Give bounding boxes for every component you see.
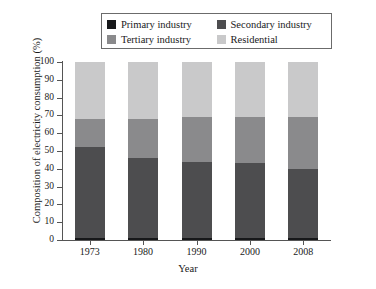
bar-segment-tertiary-industry — [235, 117, 265, 163]
plot-area — [63, 62, 330, 240]
bar-segment-primary-industry — [128, 238, 158, 240]
y-tick — [57, 133, 62, 134]
y-tick — [57, 204, 62, 205]
x-tick — [197, 241, 198, 245]
bar-segment-primary-industry — [182, 238, 212, 240]
legend-swatch-tertiary-industry — [107, 35, 116, 44]
y-tick — [57, 80, 62, 81]
bar-segment-residential — [235, 62, 265, 117]
y-tick — [57, 169, 62, 170]
y-tick — [57, 240, 62, 241]
legend-label-primary-industry: Primary industry — [121, 19, 192, 30]
y-tick — [57, 222, 62, 223]
y-tick — [57, 98, 62, 99]
bar-1973 — [75, 62, 105, 240]
x-tick-label: 1980 — [118, 246, 168, 257]
bar-segment-tertiary-industry — [75, 119, 105, 147]
bar-segment-tertiary-industry — [128, 119, 158, 158]
x-axis-title: Year — [0, 263, 376, 274]
x-tick-label: 1990 — [172, 246, 222, 257]
stacked-bar-chart: Primary industry Secondary industry Tert… — [0, 0, 376, 289]
legend-row-1: Primary industry Secondary industry — [107, 17, 326, 32]
bar-segment-secondary-industry — [182, 162, 212, 239]
bar-segment-residential — [182, 62, 212, 117]
legend-label-residential: Residential — [231, 34, 278, 45]
bar-segment-residential — [128, 62, 158, 119]
y-tick — [57, 62, 62, 63]
legend-item-secondary-industry: Secondary industry — [217, 19, 327, 30]
y-tick — [57, 151, 62, 152]
bar-1980 — [128, 62, 158, 240]
x-tick-label: 2008 — [278, 246, 328, 257]
x-tick-label: 2000 — [225, 246, 275, 257]
legend-swatch-primary-industry — [107, 20, 116, 29]
legend-swatch-residential — [217, 35, 226, 44]
legend-swatch-secondary-industry — [217, 20, 226, 29]
chart-legend: Primary industry Secondary industry Tert… — [101, 13, 332, 49]
bar-1990 — [182, 62, 212, 240]
bar-segment-residential — [288, 62, 318, 117]
x-tick — [90, 241, 91, 245]
bar-2000 — [235, 62, 265, 240]
bar-segment-secondary-industry — [235, 163, 265, 238]
bar-segment-residential — [75, 62, 105, 119]
x-tick — [143, 241, 144, 245]
y-tick — [57, 187, 62, 188]
x-tick — [250, 241, 251, 245]
bar-segment-secondary-industry — [75, 147, 105, 238]
x-tick-label: 1973 — [65, 246, 115, 257]
x-tick — [303, 241, 304, 245]
y-axis-title-wrap: Composition of electricity consumption (… — [14, 55, 30, 245]
bar-segment-tertiary-industry — [182, 117, 212, 162]
bar-segment-secondary-industry — [288, 169, 318, 238]
legend-item-residential: Residential — [217, 34, 327, 45]
legend-item-tertiary-industry: Tertiary industry — [107, 34, 217, 45]
bar-segment-primary-industry — [288, 238, 318, 240]
legend-row-2: Tertiary industry Residential — [107, 32, 326, 47]
bar-segment-tertiary-industry — [288, 117, 318, 169]
legend-label-tertiary-industry: Tertiary industry — [121, 34, 191, 45]
legend-item-primary-industry: Primary industry — [107, 19, 217, 30]
y-tick — [57, 115, 62, 116]
y-axis-title: Composition of electricity consumption (… — [31, 31, 42, 231]
bar-segment-primary-industry — [75, 238, 105, 240]
bar-segment-secondary-industry — [128, 158, 158, 238]
legend-label-secondary-industry: Secondary industry — [231, 19, 312, 30]
bar-segment-primary-industry — [235, 238, 265, 240]
bar-2008 — [288, 62, 318, 240]
